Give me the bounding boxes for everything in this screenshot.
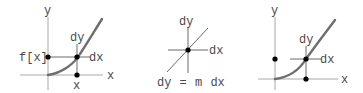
equation-label: dy = m dx (157, 76, 225, 90)
fx-dot (45, 54, 50, 59)
dy-label: dy (299, 33, 313, 47)
panel-2: dy dx dy = m dx (157, 15, 225, 90)
x-dot (303, 76, 308, 81)
x-point-label: x (73, 79, 80, 93)
dx-label: dx (320, 53, 334, 67)
point-dot (303, 56, 308, 61)
y-axis-label: y (271, 4, 278, 18)
panel-3: y x dy dx (258, 4, 348, 90)
y-axis-label: y (44, 4, 51, 18)
x-axis-label: x (107, 69, 114, 83)
tangent-point-dot (185, 47, 190, 52)
dy-label: dy (179, 15, 193, 29)
x-axis-label: x (341, 73, 348, 87)
point-dot (74, 54, 79, 59)
differential-diagram: y x f[x] dy dx x dy dx dy = m dx y x dy … (0, 0, 363, 93)
dy-label: dy (70, 31, 84, 45)
dx-label: dx (89, 51, 103, 65)
fx-label: f[x] (19, 51, 48, 65)
panel-1: y x f[x] dy dx x (19, 4, 114, 93)
x-dot (74, 72, 79, 77)
function-curve (275, 20, 335, 79)
function-curve (48, 19, 102, 75)
y-axis-dot (272, 56, 277, 61)
dx-label: dx (209, 44, 223, 58)
